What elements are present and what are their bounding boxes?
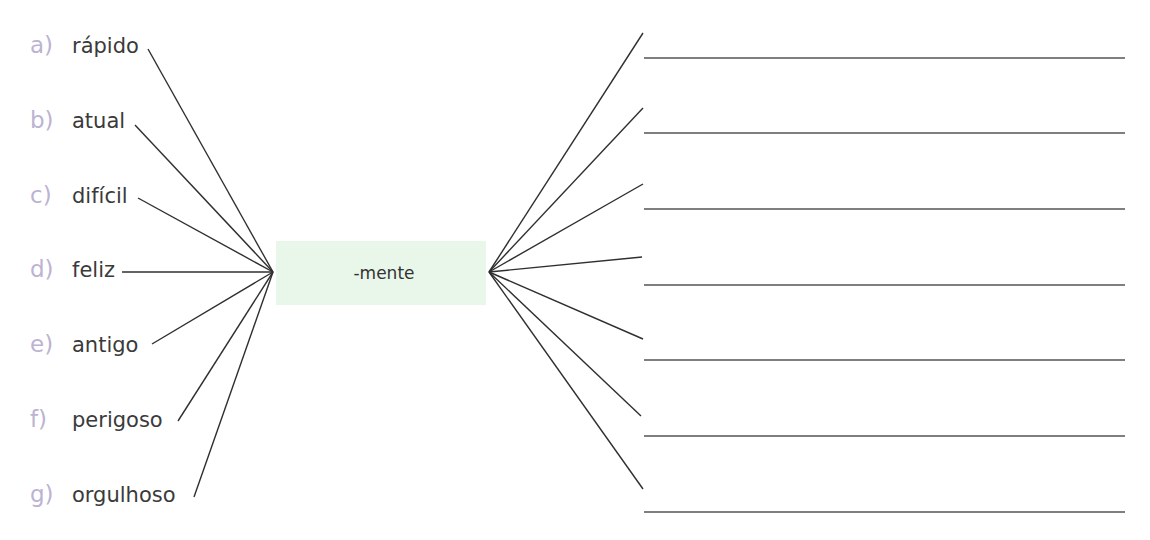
- item-word: atual: [72, 109, 125, 133]
- item-b: b) atual: [30, 107, 125, 137]
- connector-lines: [0, 0, 1150, 540]
- item-letter: f): [30, 406, 72, 432]
- item-a: a) rápido: [30, 32, 139, 62]
- output-line-2: [489, 108, 643, 272]
- output-line-1: [489, 33, 643, 272]
- item-e: e) antigo: [30, 331, 138, 361]
- suffix-box: -mente: [276, 241, 486, 305]
- output-line-6: [489, 272, 641, 416]
- item-word: rápido: [72, 34, 139, 58]
- word-formation-exercise: a) rápido b) atual c) difícil d) feliz e…: [0, 0, 1150, 540]
- item-g: g) orgulhoso: [30, 481, 176, 511]
- connector-line-e: [152, 272, 273, 344]
- connector-line-a: [148, 49, 273, 272]
- item-letter: c): [30, 182, 72, 208]
- connector-line-f: [178, 272, 273, 421]
- item-word: perigoso: [72, 408, 163, 432]
- connector-line-g: [194, 272, 273, 497]
- connector-line-b: [135, 125, 273, 272]
- item-f: f) perigoso: [30, 406, 163, 436]
- item-word: antigo: [72, 333, 138, 357]
- item-letter: g): [30, 481, 72, 507]
- item-word: orgulhoso: [72, 483, 176, 507]
- item-letter: b): [30, 107, 72, 133]
- suffix-label: -mente: [347, 263, 414, 283]
- item-letter: a): [30, 32, 72, 58]
- item-letter: d): [30, 256, 72, 282]
- output-line-7: [489, 272, 643, 489]
- item-word: difícil: [72, 184, 128, 208]
- item-letter: e): [30, 331, 72, 357]
- item-c: c) difícil: [30, 182, 128, 212]
- item-word: feliz: [72, 258, 115, 282]
- item-d: d) feliz: [30, 256, 115, 286]
